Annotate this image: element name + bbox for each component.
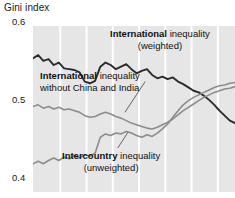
annotation-line-2: without China and India bbox=[40, 82, 140, 94]
gini-index-chart: Gini index 0.6 0.5 0.4 International ine… bbox=[0, 0, 235, 198]
annotation-line-2: (unweighted) bbox=[62, 162, 160, 174]
annotation-line-1: Intercountry inequality bbox=[62, 150, 160, 162]
annotation-international-without-china-india: International inequality without China a… bbox=[40, 70, 140, 93]
annotation-bold-word: Intercountry bbox=[62, 150, 117, 161]
annotation-leader-line-2 bbox=[118, 132, 128, 148]
y-tick-label-1: 0.5 bbox=[12, 94, 25, 105]
y-tick-label-0: 0.6 bbox=[12, 16, 25, 27]
annotation-bold-word: International bbox=[40, 70, 97, 81]
annotation-rest-word: inequality bbox=[97, 70, 140, 81]
annotation-rest-word: inequality bbox=[117, 150, 160, 161]
annotation-line-2: (weighted) bbox=[110, 40, 210, 52]
annotation-intercountry-unweighted: Intercountry inequality (unweighted) bbox=[62, 150, 160, 173]
annotation-line-1: International inequality bbox=[40, 70, 140, 82]
annotation-rest-word: inequality bbox=[167, 28, 210, 39]
annotation-international-weighted: International inequality (weighted) bbox=[110, 28, 210, 51]
chart-axis-title: Gini index bbox=[4, 2, 49, 13]
annotation-line-1: International inequality bbox=[110, 28, 210, 40]
annotation-bold-word: International bbox=[110, 28, 167, 39]
y-tick-label-2: 0.4 bbox=[12, 172, 25, 183]
